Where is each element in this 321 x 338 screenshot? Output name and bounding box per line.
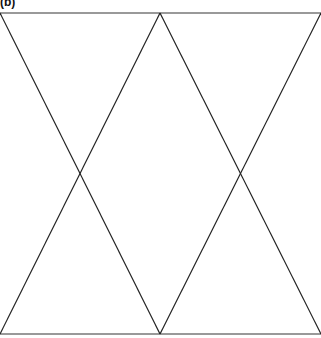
diagram-canvas: [0, 0, 321, 338]
